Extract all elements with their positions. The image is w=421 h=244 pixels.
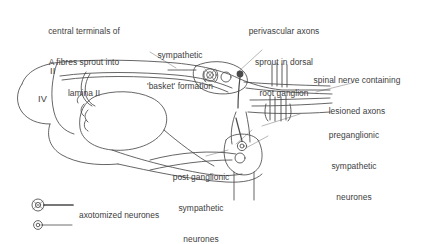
label-sympathetic-basket: sympathetic 'basket' formation bbox=[128, 30, 232, 112]
sympathetic-ganglion-right-wall bbox=[254, 140, 262, 200]
label-sympathetic-basket-line2: 'basket' formation bbox=[128, 81, 232, 91]
label-spinal-nerve-line1: spinal nerve containing bbox=[296, 75, 418, 85]
preganglionic-axon bbox=[236, 118, 242, 141]
sympathetic-ganglion-soma-upper bbox=[237, 141, 246, 150]
label-preganglionic-line3: neurones bbox=[304, 192, 404, 202]
label-preganglionic: preganglionic sympathetic neurones bbox=[304, 110, 404, 222]
legend-symbol-large bbox=[32, 199, 73, 211]
label-perivascular-axons-line1: perivascular axons bbox=[229, 26, 339, 36]
label-post-ganglionic: post ganglionic sympathetic neurones bbox=[150, 152, 252, 244]
figure-canvas: central terminals of A fibres sprout int… bbox=[0, 0, 421, 244]
lamina-II-label: II bbox=[50, 66, 56, 76]
cord-ventral-surface-left bbox=[49, 124, 119, 165]
legend-symbol-small bbox=[34, 221, 72, 230]
lamina-IV-label: IV bbox=[38, 94, 47, 104]
label-post-ganglionic-line1: post ganglionic bbox=[150, 172, 252, 182]
legend-caption: axotomized neurones bbox=[79, 210, 159, 220]
label-sympathetic-basket-line1: sympathetic bbox=[128, 50, 232, 60]
label-post-ganglionic-line3: neurones bbox=[150, 234, 252, 244]
label-preganglionic-line1: preganglionic bbox=[304, 130, 404, 140]
label-preganglionic-line2: sympathetic bbox=[304, 161, 404, 171]
label-post-ganglionic-line2: sympathetic bbox=[150, 203, 252, 213]
